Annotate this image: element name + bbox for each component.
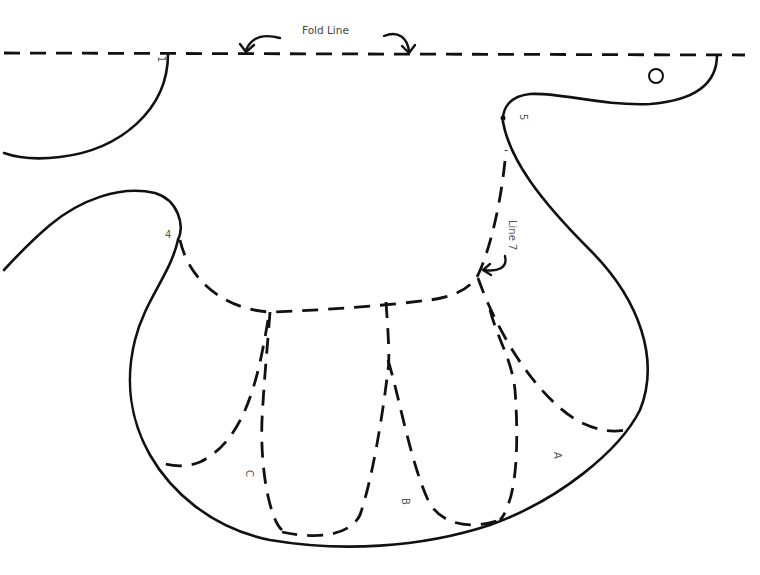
seam-line-7 <box>180 150 506 312</box>
dart-a-inner <box>490 310 517 520</box>
point-5-marker <box>501 116 506 121</box>
section-b-label: B <box>400 498 411 505</box>
right-neck-curve <box>503 55 717 122</box>
pattern-diagram: Fold Line 1 5 4 Line 7 C B A <box>0 0 760 575</box>
placement-circle-icon <box>649 69 663 83</box>
dart-c-inner <box>262 312 282 530</box>
fold-line-label: Fold Line <box>302 24 349 36</box>
section-c-label: C <box>244 470 255 477</box>
point-5-label: 5 <box>518 114 529 120</box>
neck-curve <box>4 54 168 158</box>
dart-a-outer <box>478 278 625 431</box>
section-a-label: A <box>552 452 563 459</box>
line-7-label: Line 7 <box>507 220 518 250</box>
dart-c-outer <box>158 320 268 466</box>
point-4-label: 4 <box>165 229 171 240</box>
dart-b-left <box>282 302 389 536</box>
line-7-arrow-icon <box>484 256 506 270</box>
point-1-label: 1 <box>156 56 167 62</box>
fold-line <box>4 53 745 55</box>
left-wing-curve <box>4 191 181 270</box>
